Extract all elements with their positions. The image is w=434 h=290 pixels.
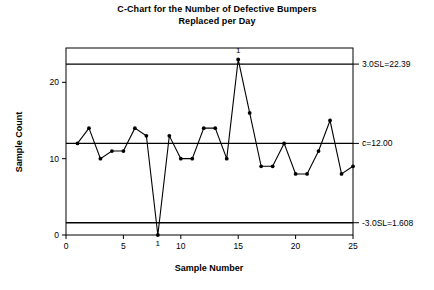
y-axis-tick-labels: 01020 [50, 77, 60, 240]
data-point-markers [76, 58, 355, 237]
data-point [248, 111, 252, 115]
annotation-label: 1 [236, 46, 241, 55]
data-point [271, 164, 275, 168]
y-axis-title: Sample Count [14, 112, 24, 173]
ucl-label: 3.0SL=22.39 [362, 59, 411, 69]
x-axis-ticks [66, 235, 353, 239]
data-point [156, 233, 160, 237]
data-point [294, 172, 298, 176]
data-point [133, 126, 137, 130]
x-tick-label: 5 [121, 241, 126, 251]
x-tick-label: 15 [233, 241, 243, 251]
y-tick-label: 20 [50, 77, 60, 87]
y-tick-label: 0 [54, 230, 59, 240]
lcl-label: -3.0SL=1.608 [362, 218, 414, 228]
x-tick-label: 20 [291, 241, 301, 251]
plot-area-border [66, 48, 353, 235]
center-line-label: c̄=12.00 [362, 138, 393, 148]
annotation-label: 1 [156, 239, 161, 248]
control-limit-lines [66, 64, 359, 223]
data-series-line [77, 59, 353, 235]
data-point [351, 164, 355, 168]
x-tick-label: 10 [176, 241, 186, 251]
data-point [99, 157, 103, 161]
x-axis-tick-labels: 0510152025 [64, 241, 358, 251]
data-point [76, 142, 80, 146]
data-point [328, 119, 332, 123]
chart-canvas: 11 01020 0510152025 3.0SL=22.39c̄=12.00-… [0, 0, 434, 290]
y-tick-label: 10 [50, 154, 60, 164]
data-point [110, 149, 114, 153]
data-point [167, 134, 171, 138]
data-point [179, 157, 183, 161]
data-point [213, 126, 217, 130]
data-point [317, 149, 321, 153]
x-tick-label: 25 [348, 241, 358, 251]
data-point [122, 149, 126, 153]
data-point [236, 58, 240, 62]
data-point [190, 157, 194, 161]
data-point [340, 172, 344, 176]
y-axis-ticks [62, 82, 66, 235]
data-point [259, 164, 263, 168]
data-point [87, 126, 91, 130]
x-axis-title: Sample Number [175, 263, 244, 273]
x-tick-label: 0 [64, 241, 69, 251]
data-point [225, 157, 229, 161]
data-point [282, 142, 286, 146]
data-point [202, 126, 206, 130]
data-point [144, 134, 148, 138]
data-point [305, 172, 309, 176]
control-limit-labels: 3.0SL=22.39c̄=12.00-3.0SL=1.608 [362, 59, 414, 228]
c-chart-figure: C-Chart for the Number of Defective Bump… [0, 0, 434, 290]
